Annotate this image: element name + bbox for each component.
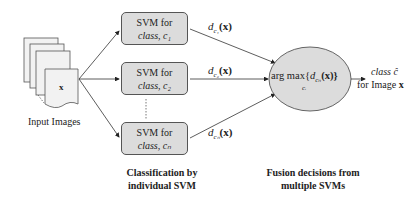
input-images-label: Input Images (28, 116, 81, 127)
caption-fusion: Fusion decisions from multiple SVMs (258, 166, 368, 192)
svm-box-2: SVM for class, c₂ (121, 62, 188, 95)
decision-label-2: dc₂(x) (208, 64, 232, 79)
svm-box-n: SVM for class, cₙ (121, 122, 188, 155)
svm-box-1: SVM for class, c₁ (121, 12, 188, 45)
fusion-argmax-subscript: cᵢ (302, 84, 306, 92)
arrow-to-svm-n (79, 79, 119, 137)
svm-box-n-title: SVM for (122, 126, 187, 139)
svm-fusion-diagram: x Input Images SVM for class, c₁ SVM for… (0, 0, 420, 197)
fusion-expression: arg max{dcₙ(x)} (271, 70, 338, 84)
svm-box-1-title: SVM for (122, 16, 187, 29)
decision-label-n: dcₙ(x) (208, 126, 232, 141)
svm-box-2-class: class, c₂ (122, 79, 187, 92)
decision-label-1: dc₁(x) (208, 20, 232, 35)
arrow-svm-n-to-fusion (190, 94, 275, 138)
arrow-to-svm-1 (79, 31, 119, 79)
output-class-label: class ĉ (371, 66, 398, 77)
input-images-stack-icon (24, 38, 78, 108)
arrow-svm-1-to-fusion (190, 29, 275, 63)
svm-box-2-title: SVM for (122, 66, 187, 79)
input-doc-symbol: x (59, 82, 64, 92)
svm-box-n-class: class, cₙ (122, 139, 187, 152)
caption-classification: Classification by individual SVM (112, 166, 212, 192)
svm-box-1-class: class, c₁ (122, 29, 187, 42)
output-image-label: for Image x (357, 79, 404, 90)
